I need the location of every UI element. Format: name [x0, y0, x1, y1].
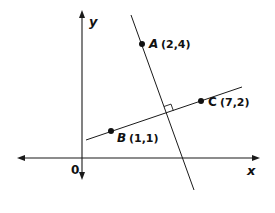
point-a-name: A	[148, 37, 158, 51]
point-b-coords: (1,1)	[129, 132, 159, 145]
y-axis-label: y	[89, 14, 98, 29]
point-c-dot-icon	[198, 98, 204, 104]
x-axis-left-arrow-icon	[17, 155, 25, 161]
point-a: A (2,4)	[139, 37, 191, 51]
point-c: C (7,2)	[198, 95, 250, 109]
point-a-coords: (2,4)	[161, 38, 191, 51]
point-c-name: C	[208, 95, 217, 109]
y-axis	[79, 10, 85, 180]
origin-label: 0	[71, 163, 79, 177]
point-b: B (1,1)	[108, 128, 159, 145]
point-b-name: B	[117, 131, 126, 145]
y-axis-up-arrow-icon	[79, 10, 85, 18]
coordinate-diagram: y x 0 A (2,4) B (1,1) C (7,2)	[0, 0, 275, 213]
x-axis-right-arrow-icon	[252, 155, 260, 161]
y-axis-down-arrow-icon	[79, 172, 85, 180]
x-axis	[17, 155, 260, 161]
point-b-dot-icon	[108, 128, 114, 134]
point-c-coords: (7,2)	[220, 96, 250, 109]
point-a-dot-icon	[139, 41, 145, 47]
x-axis-label: x	[246, 163, 256, 178]
